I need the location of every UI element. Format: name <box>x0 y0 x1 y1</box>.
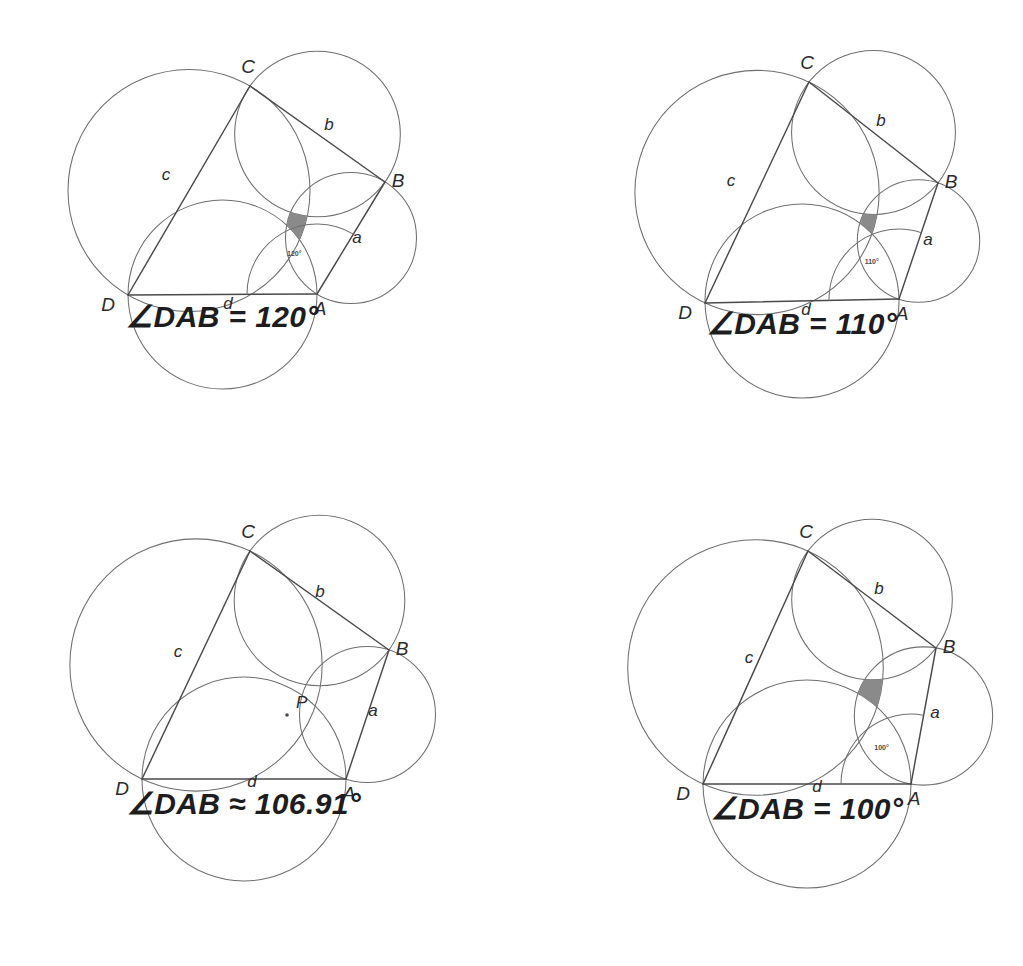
panel-10691-circles <box>70 515 436 881</box>
panel-110-anglearc: 110° <box>829 229 921 300</box>
panel-100-shade <box>858 679 883 707</box>
figure-grid: 120° ABCDabcd∠DAB = 120° 110° ABCDabcd∠D… <box>0 0 1023 966</box>
side-label-b: b <box>876 111 885 130</box>
quad-side-c <box>128 86 250 295</box>
side-label-c: c <box>727 171 736 190</box>
panel-10691-canvas: PABCDabcd∠DAB ≈ 106.91° <box>0 483 512 966</box>
vertex-label-a: A <box>907 788 921 809</box>
vertex-label-d: D <box>678 302 692 323</box>
panel-caption: ∠DAB = 120° <box>126 300 319 333</box>
concurrency-point <box>285 713 289 717</box>
side-label-a: a <box>368 701 377 720</box>
angle-dab-mini-label: 100° <box>874 744 889 751</box>
panel-angle-120: 120° ABCDabcd∠DAB = 120° <box>0 0 512 483</box>
panel-110-circles <box>635 51 980 398</box>
panel-100-labels: ABCDabcd∠DAB = 100° <box>676 521 956 825</box>
side-label-c: c <box>745 648 754 667</box>
vertex-label-b: B <box>943 636 956 657</box>
vertex-label-c: C <box>800 52 814 73</box>
side-label-c: c <box>174 642 183 661</box>
side-label-b: b <box>324 115 333 134</box>
quad-side-a <box>317 182 385 294</box>
side-label-a: a <box>923 230 932 249</box>
side-label-a: a <box>352 228 361 247</box>
vertex-label-d: D <box>101 294 115 315</box>
panel-120-circles <box>68 51 417 389</box>
angle-dab-mini-label: 110° <box>865 258 879 265</box>
panel-10691-sides <box>142 551 389 779</box>
panel-caption: ∠DAB = 110° <box>707 307 898 340</box>
panel-110-labels: ABCDabcd∠DAB = 110° <box>678 52 958 340</box>
panel-angle-110: 110° ABCDabcd∠DAB = 110° <box>512 0 1023 483</box>
panel-110-sides <box>705 82 938 303</box>
panel-120-labels: ABCDabcd∠DAB = 120° <box>101 56 405 333</box>
vertex-label-b: B <box>945 171 958 192</box>
vertex-label-b: B <box>396 638 409 659</box>
panel-angle-100: 100° ABCDabcd∠DAB = 100° <box>512 483 1023 966</box>
point-label-p: P <box>296 693 308 712</box>
side-label-b: b <box>874 579 883 598</box>
vertex-label-d: D <box>676 783 690 804</box>
panel-caption: ∠DAB ≈ 106.91° <box>127 787 362 820</box>
quad-side-c <box>142 551 250 779</box>
quad-side-c <box>705 82 809 303</box>
shaded-central-region <box>287 212 307 239</box>
panel-caption: ∠DAB = 100° <box>711 792 904 825</box>
vertex-label-b: B <box>392 170 405 191</box>
panel-10691-labels: PABCDabcd∠DAB ≈ 106.91° <box>115 521 409 820</box>
panel-angle-10691: PABCDabcd∠DAB ≈ 106.91° <box>0 483 512 966</box>
side-label-b: b <box>315 582 324 601</box>
quad-side-b <box>809 82 938 183</box>
angle-dab-mini-label: 120° <box>287 250 302 257</box>
quad-side-c <box>703 551 808 784</box>
panel-110-canvas: 110° ABCDabcd∠DAB = 110° <box>512 0 1023 483</box>
panel-120-canvas: 120° ABCDabcd∠DAB = 120° <box>0 0 512 483</box>
panel-120-shade <box>287 212 307 239</box>
quad-side-b <box>250 86 385 182</box>
panel-100-canvas: 100° ABCDabcd∠DAB = 100° <box>512 483 1023 966</box>
quad-side-b <box>808 551 936 648</box>
side-label-a: a <box>930 703 939 722</box>
side-label-c: c <box>162 165 171 184</box>
panel-100-sides <box>703 551 936 784</box>
shaded-central-region <box>858 679 883 707</box>
vertex-label-c: C <box>241 521 255 542</box>
vertex-label-c: C <box>799 521 813 542</box>
vertex-label-c: C <box>241 56 255 77</box>
